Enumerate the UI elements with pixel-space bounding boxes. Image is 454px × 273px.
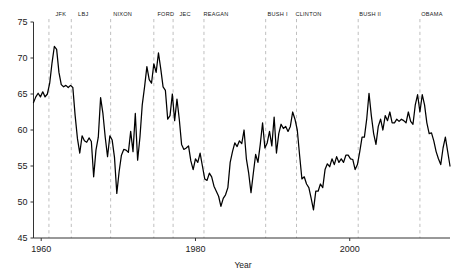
y-tick-label-45: 45 [17,233,27,243]
y-tick-label-60: 60 [17,125,27,135]
line-chart: JFKLBJNIXONFORDJECREAGANBUSH ICLINTONBUS… [0,0,454,273]
era-label-lbj: LBJ [78,11,88,17]
x-tick-label-1960: 1960 [31,244,51,254]
era-label-group: JFKLBJNIXONFORDJECREAGANBUSH ICLINTONBUS… [56,11,443,17]
era-label-jec: JEC [179,11,190,17]
era-label-bush-i: BUSH I [268,11,288,17]
data-series-group [34,46,451,209]
x-tick-label-2000: 2000 [340,244,360,254]
era-label-ford: FORD [157,11,174,17]
era-label-nixon: NIXON [113,11,132,17]
x-axis-title: Year [234,260,251,270]
era-label-jfk: JFK [56,11,67,17]
y-axis-tick-group: 45505560657075 [17,17,33,243]
era-label-reagan: REAGAN [203,11,228,17]
chart-container: JFKLBJNIXONFORDJECREAGANBUSH ICLINTONBUS… [0,0,454,273]
era-label-bush-ii: BUSH II [359,11,381,17]
era-label-obama: OBAMA [421,11,442,17]
data-line-value [34,46,451,209]
y-tick-label-75: 75 [17,17,27,27]
x-tick-label-1980: 1980 [185,244,205,254]
x-axis-tick-group: 196019802000 [31,238,360,254]
y-tick-label-65: 65 [17,89,27,99]
axes-group [34,22,451,238]
era-label-clinton: CLINTON [295,11,321,17]
y-tick-label-50: 50 [17,197,27,207]
y-tick-label-55: 55 [17,161,27,171]
y-tick-label-70: 70 [17,53,27,63]
